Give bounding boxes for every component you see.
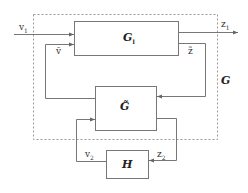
signal-ztilde-path xyxy=(157,44,206,97)
signal-v1-label: v1 xyxy=(19,23,28,34)
signal-ztilde-label: z̃ xyxy=(188,47,193,56)
signal-z1-label: z1 xyxy=(221,20,230,31)
signal-v2-label: v2 xyxy=(85,150,94,161)
block-h-label: H xyxy=(122,159,132,170)
block-gl-label: Gl xyxy=(123,32,135,45)
signal-vtilde-label: ṽ xyxy=(56,47,61,56)
signal-z2-label: z2 xyxy=(157,150,166,161)
system-g-label: G xyxy=(221,75,230,86)
block-gtilde-label: G̃ xyxy=(120,101,129,112)
signal-vtilde-path xyxy=(46,45,96,99)
